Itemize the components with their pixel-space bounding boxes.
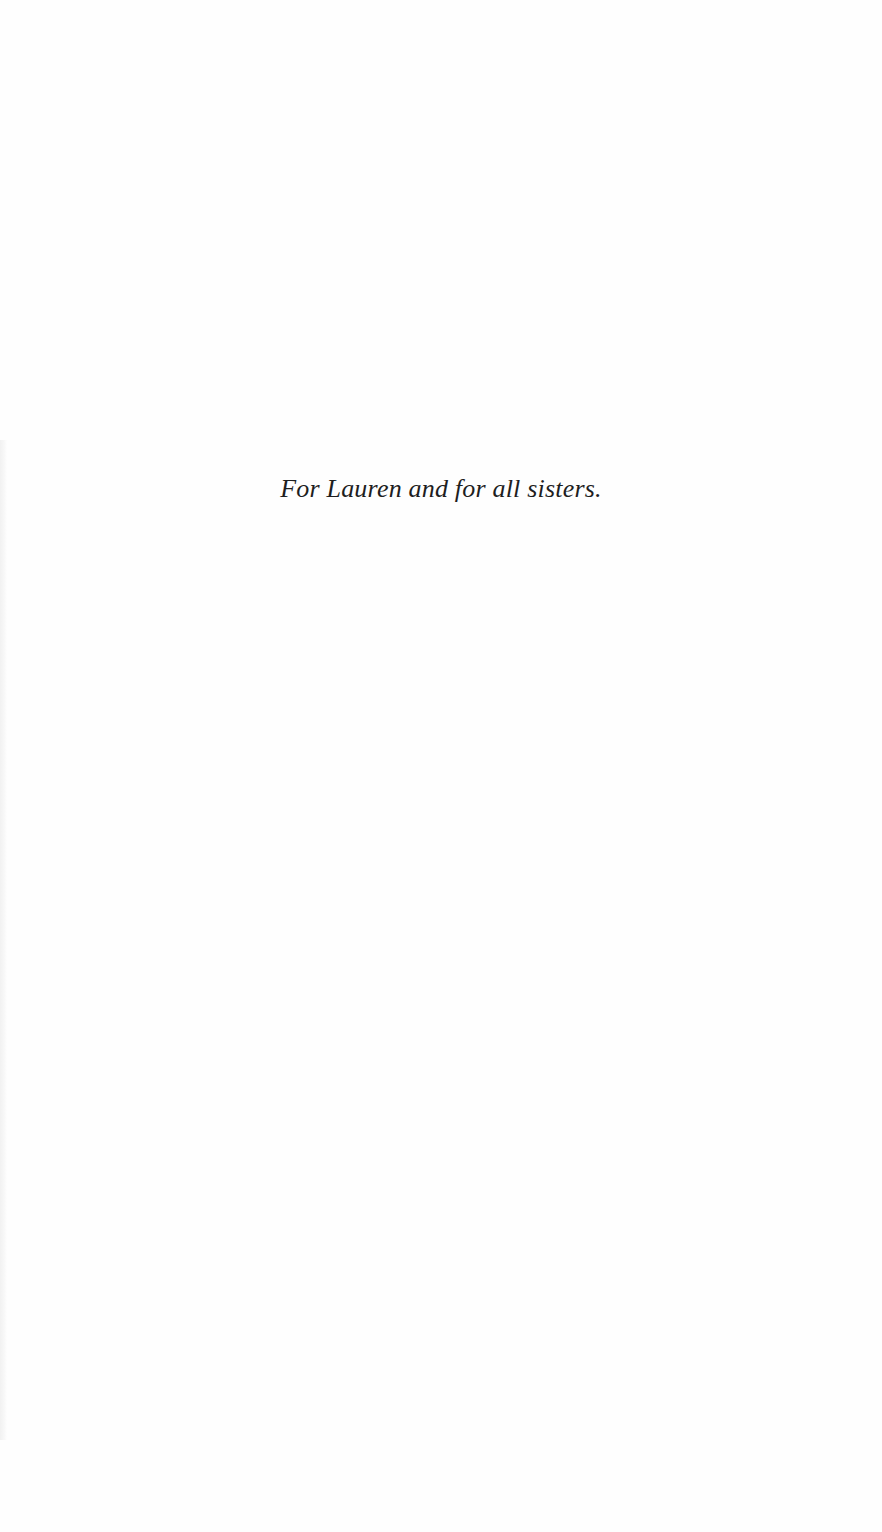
book-page: For Lauren and for all sisters. [0, 0, 882, 1532]
scan-edge-shadow [0, 440, 7, 1440]
dedication-text: For Lauren and for all sisters. [0, 474, 882, 504]
